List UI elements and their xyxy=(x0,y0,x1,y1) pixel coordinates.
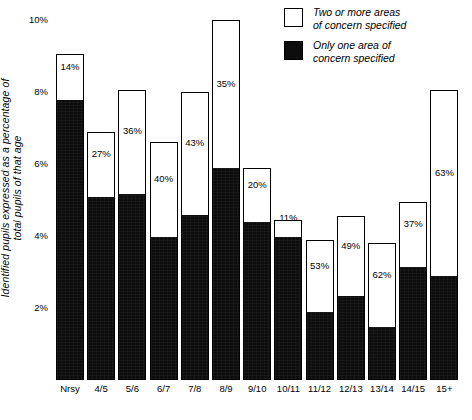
bar-total[interactable]: 27% xyxy=(87,132,115,380)
bar-percent-label: 63% xyxy=(431,168,457,178)
bar-segment-only-one-area[interactable] xyxy=(119,194,145,379)
bar-segment-only-one-area[interactable] xyxy=(431,276,457,379)
y-axis-tick-10: 10% xyxy=(14,15,48,25)
bar-segment-only-one-area[interactable] xyxy=(400,267,426,379)
bar-percent-label: 40% xyxy=(151,174,177,184)
open-square-swatch-icon xyxy=(284,8,303,27)
legend-line2: concern specified xyxy=(313,52,395,64)
bar-percent-label: 11% xyxy=(275,213,301,223)
bar-segment-only-one-area[interactable] xyxy=(57,100,83,379)
bar-segment-only-one-area[interactable] xyxy=(369,327,395,379)
bar-total[interactable]: 20% xyxy=(243,168,271,380)
legend-line1: Only one area of xyxy=(313,39,391,51)
y-axis-title-wrap: Identified pupils expressed as a percent… xyxy=(0,38,22,338)
legend-item-only-one-label: Only one area of concern specified xyxy=(313,39,470,64)
bar-percent-label: 62% xyxy=(369,270,395,280)
bar-segment-only-one-area[interactable] xyxy=(182,215,208,379)
y-axis-tick-6: 6% xyxy=(14,159,48,169)
chart-legend: Two or more areas of concern specified O… xyxy=(284,6,470,72)
bar-percent-label: 43% xyxy=(182,138,208,148)
bar-percent-label: 53% xyxy=(307,261,333,271)
bar-percent-label: 14% xyxy=(57,62,83,72)
bar-percent-label: 36% xyxy=(119,126,145,136)
bar-total[interactable]: 43% xyxy=(181,92,209,380)
bar-total[interactable]: 62% xyxy=(368,243,396,380)
legend-line1: Two or more areas xyxy=(313,6,400,18)
bar-total[interactable]: 36% xyxy=(118,90,146,380)
bar-percent-label: 37% xyxy=(400,219,426,229)
legend-item-two-or-more: Two or more areas of concern specified xyxy=(284,6,470,32)
y-axis-title-line1: Identified pupils expressed as a percent… xyxy=(0,79,11,298)
y-axis-tick-8: 8% xyxy=(14,87,48,97)
bar-segment-only-one-area[interactable] xyxy=(88,197,114,379)
bar-segment-only-one-area[interactable] xyxy=(151,237,177,379)
bar-total[interactable]: 63% xyxy=(430,90,458,380)
stacked-bar-chart: Identified pupils expressed as a percent… xyxy=(0,0,472,420)
legend-item-two-or-more-label: Two or more areas of concern specified xyxy=(313,6,470,31)
filled-square-swatch-icon xyxy=(284,41,303,60)
x-axis-tick-15plus: 15+ xyxy=(422,384,466,394)
y-axis-tick-4: 4% xyxy=(14,231,48,241)
bar-percent-label: 20% xyxy=(244,180,270,190)
bar-percent-label: 49% xyxy=(338,241,364,251)
bar-segment-only-one-area[interactable] xyxy=(213,168,239,379)
bar-percent-label: 35% xyxy=(213,79,239,89)
bar-total[interactable]: 11% xyxy=(274,220,302,380)
y-axis-tick-2: 2% xyxy=(14,303,48,313)
bar-percent-label: 27% xyxy=(88,149,114,159)
bar-total[interactable]: 49% xyxy=(337,216,365,380)
bar-total[interactable]: 14% xyxy=(56,54,84,380)
bar-total[interactable]: 40% xyxy=(150,142,178,380)
bar-total[interactable]: 37% xyxy=(399,202,427,380)
bar-segment-only-one-area[interactable] xyxy=(307,312,333,379)
bar-total[interactable]: 53% xyxy=(306,240,334,380)
bar-total[interactable]: 35% xyxy=(212,20,240,380)
legend-line2: of concern specified xyxy=(313,19,406,31)
plot-area: 14%Nrsy27%4/536%5/640%6/743%7/835%8/920%… xyxy=(56,20,460,380)
bar-segment-only-one-area[interactable] xyxy=(244,222,270,379)
bar-segment-only-one-area[interactable] xyxy=(275,237,301,379)
legend-item-only-one: Only one area of concern specified xyxy=(284,39,470,65)
bar-segment-only-one-area[interactable] xyxy=(338,296,364,379)
